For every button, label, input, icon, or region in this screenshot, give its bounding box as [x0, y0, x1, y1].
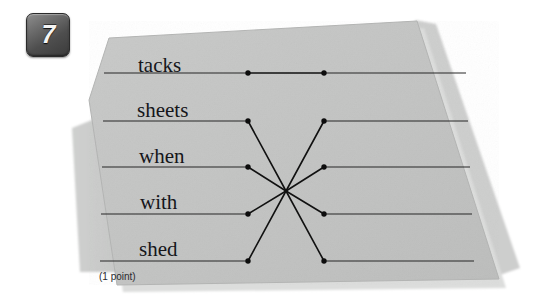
word-label-with: with [140, 192, 177, 213]
points-label: (1 point) [99, 272, 136, 282]
endpoint-dot-shed[interactable] [245, 258, 250, 263]
endpoint-dot-right-5[interactable] [321, 258, 326, 263]
word-label-tacks: tacks [138, 55, 181, 76]
worksheet-scan: 7 tackssheetswhenwithshed (1 point) [0, 0, 554, 307]
endpoint-dot-right-3[interactable] [321, 164, 326, 169]
question-number-badge: 7 [26, 13, 70, 57]
endpoint-dot-with[interactable] [245, 211, 250, 216]
badge-plate: 7 [26, 13, 70, 57]
endpoint-dot-when[interactable] [245, 164, 250, 169]
word-label-shed: shed [139, 239, 178, 260]
word-label-when: when [139, 146, 185, 167]
endpoint-dot-right-4[interactable] [321, 211, 326, 216]
endpoint-dot-right-2[interactable] [321, 118, 326, 123]
endpoint-dot-sheets[interactable] [245, 118, 250, 123]
endpoint-dot-right-1[interactable] [321, 70, 326, 75]
matching-card-graphic [0, 0, 554, 307]
endpoint-dot-tacks[interactable] [245, 70, 250, 75]
question-number-label: 7 [42, 22, 55, 49]
word-label-sheets: sheets [137, 100, 188, 121]
